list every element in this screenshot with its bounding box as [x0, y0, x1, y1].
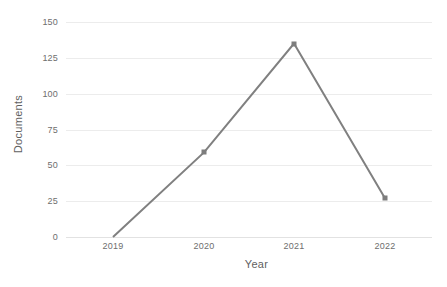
x-tick-label: 2022 [375, 241, 396, 251]
x-axis-tick-labels: 2019 2020 2021 2022 [0, 0, 447, 287]
x-tick-label: 2021 [284, 241, 305, 251]
x-tick-label: 2019 [103, 241, 124, 251]
line-chart-figure: 150 125 100 75 50 25 0 2019 2020 2021 20… [0, 0, 447, 287]
y-axis-title: Documents [12, 54, 24, 194]
x-axis-title: Year [0, 258, 447, 270]
x-tick-label: 2020 [194, 241, 215, 251]
